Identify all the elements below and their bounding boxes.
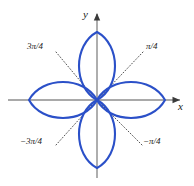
y-axis-arrow-icon xyxy=(94,13,100,21)
angle-label-3pi-over-4: 3π/4 xyxy=(27,41,43,51)
x-axis-label: x xyxy=(178,100,183,112)
angle-label-negative-3pi-over-4: −3π/4 xyxy=(20,136,42,146)
angle-label-pi-over-4: π/4 xyxy=(146,41,158,51)
plot-canvas xyxy=(0,0,194,186)
angle-label-negative-pi-over-4: −π/4 xyxy=(143,136,161,146)
polar-rose-figure: 3π/4 π/4 −3π/4 −π/4 y x xyxy=(0,0,194,186)
y-axis-label: y xyxy=(83,8,88,20)
